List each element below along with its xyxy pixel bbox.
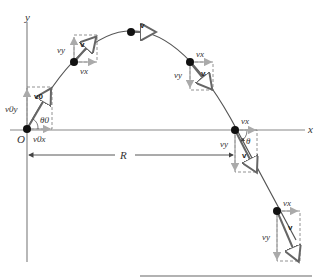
v-label: v — [80, 40, 85, 49]
theta-label: θ — [246, 136, 251, 146]
vy-label: vy — [220, 139, 228, 149]
v-label: v — [242, 151, 247, 160]
vy-label: vy — [57, 45, 65, 55]
v0-label: v0 — [34, 92, 43, 101]
axes: y x O — [10, 11, 313, 262]
v-label: v — [288, 223, 293, 232]
launch-point: v0 v0y v0x θ0 — [5, 87, 52, 144]
vy-label: vy — [174, 70, 182, 80]
v-vector — [74, 38, 95, 62]
y-axis-label: y — [24, 11, 30, 23]
trajectory-curve — [27, 31, 296, 240]
vx-label: vx — [80, 66, 88, 76]
range-indicator: R — [29, 149, 233, 161]
v0x-label: v0x — [33, 134, 46, 144]
vx-label: vx — [283, 198, 291, 208]
vx-label: vx — [241, 116, 249, 126]
vy-label: vy — [262, 232, 270, 242]
ball — [273, 207, 281, 215]
rising-point: v vy vx — [57, 35, 97, 76]
v-vector — [277, 211, 298, 260]
theta0-label: θ0 — [40, 115, 49, 125]
x-axis-label: x — [307, 123, 313, 135]
below-axis-point: v vy vx — [262, 198, 300, 261]
vx-label: vx — [196, 49, 204, 59]
ball — [231, 126, 239, 134]
ball — [23, 125, 31, 133]
projectile-motion-diagram: y x O R v0 v0y v0x θ0 v vy vx v — [0, 0, 325, 279]
v0y-label: v0y — [5, 104, 18, 114]
ball — [127, 28, 135, 36]
landing-point: v vy vx θ — [220, 116, 257, 172]
theta0-arc-icon — [33, 119, 38, 129]
origin-label: O — [17, 133, 25, 145]
falling-point: v vy vx — [174, 49, 213, 90]
range-label: R — [119, 149, 127, 161]
ball — [70, 58, 78, 66]
ball — [186, 58, 194, 66]
v-label: v — [201, 69, 206, 78]
v-label: v — [140, 21, 145, 30]
